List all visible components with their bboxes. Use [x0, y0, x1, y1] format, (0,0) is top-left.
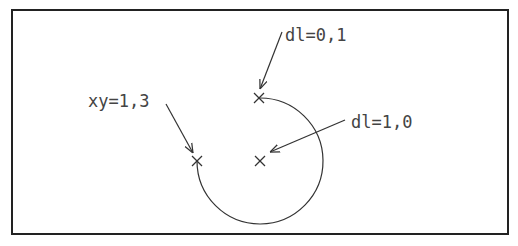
start-point-label: xy=1,3	[88, 91, 149, 111]
arc-diagram: xy=1,3 dl=0,1 dl=1,0	[0, 0, 518, 246]
center-marker-icon	[255, 156, 265, 166]
diagram-frame	[12, 10, 508, 234]
arc-center-direction-label: dl=1,0	[351, 112, 412, 132]
arc-start-direction-label: dl=0,1	[285, 25, 346, 45]
arc-center-direction-arrow	[270, 120, 345, 152]
arc-start-direction-arrow	[260, 32, 282, 89]
start-point-arrow	[166, 104, 193, 153]
